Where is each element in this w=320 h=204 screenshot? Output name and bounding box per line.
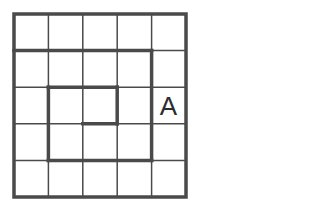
- cell-label-a: A: [160, 93, 177, 119]
